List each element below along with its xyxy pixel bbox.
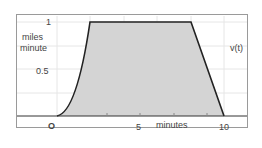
y-label-line2: minute [20,43,47,53]
x-axis-label: minutes [156,120,188,130]
y-tick-0-5: 0.5 [36,66,49,76]
x-tick-10: 10 [219,122,229,132]
y-tick-1: 1 [46,17,51,27]
series-label: v(t) [230,43,243,53]
y-label-line1: miles [22,32,43,42]
origin-label: O [48,121,55,131]
x-tick-5: 5 [136,122,141,132]
